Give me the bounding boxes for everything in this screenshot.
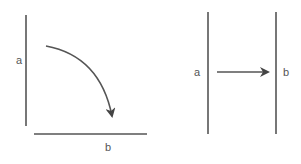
label-a-right: a	[194, 66, 201, 78]
right-figure: a b	[194, 12, 289, 134]
diagram-canvas: a b a b	[0, 0, 301, 164]
label-a-left: a	[16, 54, 23, 66]
curved-arrow-icon	[46, 46, 112, 116]
label-b-right: b	[283, 66, 289, 78]
label-b-left: b	[105, 141, 111, 153]
left-figure: a b	[16, 15, 147, 153]
